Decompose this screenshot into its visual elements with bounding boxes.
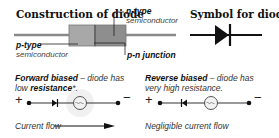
resistance-term: resistance: [30, 83, 72, 93]
forward-heading: Forward biased: [15, 73, 78, 83]
reverse-plus: +: [145, 92, 153, 107]
reverse-circuit: [158, 97, 252, 110]
p-type-sub: semiconductor: [16, 50, 68, 59]
diode-symbol-icon: [190, 24, 262, 46]
n-type-label: n-type: [126, 6, 152, 16]
reverse-heading: Reverse biased: [145, 73, 207, 83]
forward-flow-label: Current flow: [15, 121, 61, 131]
forward-minus: −: [123, 90, 131, 105]
n-type-sub: semiconductor: [126, 16, 178, 25]
forward-plus: +: [15, 92, 23, 107]
symbol-title: Symbol for diode: [190, 8, 279, 20]
reverse-flow-label: Negligible current flow: [145, 121, 229, 131]
p-type-label: p-type: [16, 40, 42, 50]
reverse-minus: −: [254, 90, 262, 105]
pn-junction-label: p-n junction: [127, 50, 176, 60]
